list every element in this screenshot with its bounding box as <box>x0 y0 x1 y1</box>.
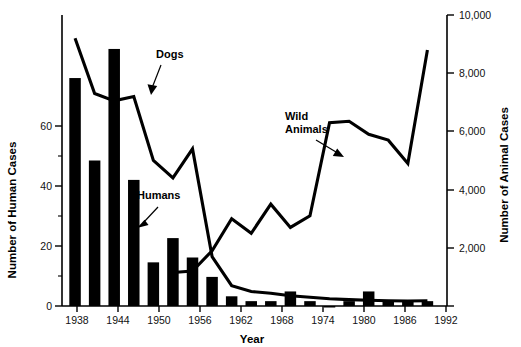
bar-1944 <box>108 49 120 306</box>
chart-canvas: 60 40 20 0 10,000 8,000 6,000 4,000 2,00… <box>0 0 521 347</box>
x-axis-title: Year <box>240 333 265 345</box>
bar-1977 <box>324 306 336 308</box>
x-tick-label-1950: 1950 <box>147 314 171 326</box>
rabies-cases-chart: 60 40 20 0 10,000 8,000 6,000 4,000 2,00… <box>0 0 521 347</box>
bar-1959 <box>206 277 218 306</box>
y-tick-label-40: 40 <box>40 180 52 192</box>
y2-axis-title: Number of Animal Cases <box>498 107 510 243</box>
y2-tick-label-2000: 2,000 <box>459 242 485 254</box>
wild-animals-line-series <box>173 50 427 273</box>
x-axis: 1938 1944 1950 1956 1962 1968 1974 1980 … <box>62 306 458 326</box>
dogs-line-series <box>75 38 427 301</box>
x-tick-label-1980: 1980 <box>352 314 376 326</box>
left-axis: 60 40 20 0 <box>40 15 62 312</box>
annotation-humans: Humans <box>137 189 180 228</box>
bar-1974 <box>304 301 316 306</box>
y2-tick-label-4000: 4,000 <box>459 184 485 196</box>
x-tick-label-1974: 1974 <box>311 314 335 326</box>
bar-1980 <box>343 301 355 306</box>
x-tick-label-1956: 1956 <box>188 314 212 326</box>
bar-1962 <box>226 296 238 306</box>
x-tick-label-1992: 1992 <box>434 314 458 326</box>
x-tick-label-1944: 1944 <box>106 314 130 326</box>
right-axis: 10,000 8,000 6,000 4,000 2,000 <box>447 9 491 306</box>
y2-tick-label-6000: 6,000 <box>459 125 485 137</box>
y-tick-label-0: 0 <box>46 300 52 312</box>
bar-1965 <box>245 301 256 306</box>
annotation-humans-label: Humans <box>137 189 180 201</box>
bar-1950 <box>148 262 160 306</box>
y-axis-title: Number of Human Cases <box>6 142 18 279</box>
annotation-dogs: Dogs <box>148 48 184 95</box>
bar-1938 <box>69 78 81 306</box>
x-tick-label-1986: 1986 <box>393 314 417 326</box>
x-tick-label-1968: 1968 <box>270 314 294 326</box>
x-tick-label-1962: 1962 <box>229 314 253 326</box>
annotation-dogs-label: Dogs <box>156 48 184 60</box>
bar-1971 <box>285 291 297 306</box>
annotation-wild-animals-label-line2: Animals <box>285 123 328 135</box>
annotation-wild-animals-label-line1: Wild <box>285 110 308 122</box>
y2-tick-label-8000: 8,000 <box>459 67 485 79</box>
y-tick-label-60: 60 <box>40 120 52 132</box>
y2-tick-label-10000: 10,000 <box>459 9 491 21</box>
x-tick-label-1938: 1938 <box>65 314 89 326</box>
y-tick-label-20: 20 <box>40 240 52 252</box>
bar-1941 <box>89 161 101 307</box>
annotation-wild-animals: Wild Animals <box>285 110 344 157</box>
bar-1968 <box>265 301 277 306</box>
human-cases-bars <box>69 49 433 308</box>
